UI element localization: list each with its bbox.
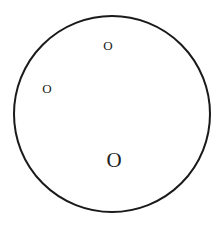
label-center-o: O (106, 148, 121, 172)
circle-diagram: O O O (0, 0, 221, 230)
label-left-o: O (42, 81, 51, 96)
label-top-o: O (103, 38, 112, 53)
